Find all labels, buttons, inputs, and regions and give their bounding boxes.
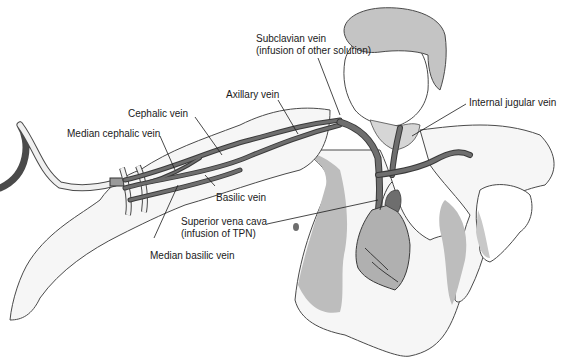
label-subclavian-line1: Subclavian vein bbox=[256, 33, 371, 45]
label-basilic-vein: Basilic vein bbox=[216, 192, 266, 204]
torso-shade bbox=[298, 150, 347, 313]
label-internal-jugular-vein: Internal jugular vein bbox=[469, 97, 556, 109]
label-svc-line1: Superior vena cava bbox=[181, 216, 267, 228]
label-axillary-vein: Axillary vein bbox=[226, 89, 279, 101]
nipple bbox=[293, 223, 299, 231]
label-subclavian-vein: Subclavian vein (infusion of other solut… bbox=[256, 33, 371, 56]
label-median-basilic-vein: Median basilic vein bbox=[150, 250, 235, 262]
label-subclavian-line2: (infusion of other solution) bbox=[256, 45, 371, 57]
label-median-cephalic-vein: Median cephalic vein bbox=[67, 128, 160, 140]
label-svc-line2: (infusion of TPN) bbox=[181, 228, 267, 240]
catheter-hub bbox=[110, 178, 124, 186]
label-cephalic-vein: Cephalic vein bbox=[128, 108, 188, 120]
vein-access-diagram: Subclavian vein (infusion of other solut… bbox=[0, 0, 569, 361]
label-superior-vena-cava: Superior vena cava (infusion of TPN) bbox=[181, 216, 267, 239]
left-arm bbox=[10, 108, 330, 320]
